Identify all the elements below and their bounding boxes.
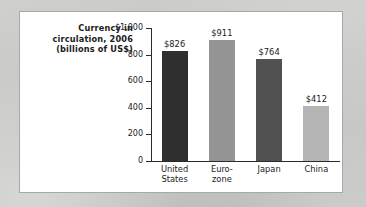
category-label-line: China bbox=[290, 164, 342, 174]
y-axis-tick-label: 0 bbox=[98, 156, 143, 165]
figure-panel: Currency in circulation, 2006 (billions … bbox=[19, 11, 343, 193]
bar-value-label: $826 bbox=[153, 39, 197, 49]
category-label-line: United bbox=[149, 164, 201, 174]
bars-layer: $826$911$764$412 bbox=[151, 28, 340, 161]
category-label-line: Euro- bbox=[196, 164, 248, 174]
category-label: Japan bbox=[243, 164, 295, 174]
y-axis-tick-mark bbox=[146, 161, 152, 162]
bar-column[interactable]: $826 bbox=[162, 28, 188, 161]
bar-value-label: $764 bbox=[247, 47, 291, 57]
bar-column[interactable]: $911 bbox=[209, 28, 235, 161]
bar-column[interactable]: $412 bbox=[303, 28, 329, 161]
bar[interactable] bbox=[209, 40, 235, 161]
y-axis-tick-label: $1,000 bbox=[98, 23, 143, 32]
category-label: UnitedStates bbox=[149, 164, 201, 185]
x-axis-line bbox=[151, 161, 340, 162]
category-label-line: Japan bbox=[243, 164, 295, 174]
category-label: China bbox=[290, 164, 342, 174]
plot-area: $1,0008006004002000 $826$911$764$412 Uni… bbox=[20, 12, 342, 192]
category-labels: UnitedStatesEuro-zoneJapanChina bbox=[151, 164, 340, 194]
bar-value-label: $412 bbox=[294, 94, 338, 104]
bar[interactable] bbox=[256, 59, 282, 161]
category-label: Euro-zone bbox=[196, 164, 248, 185]
bar[interactable] bbox=[303, 106, 329, 161]
bar-value-label: $911 bbox=[200, 28, 244, 38]
figure-panel-inner: Currency in circulation, 2006 (billions … bbox=[20, 12, 342, 192]
y-axis-tick-label: 600 bbox=[98, 76, 143, 85]
category-label-line: zone bbox=[196, 174, 248, 184]
bar[interactable] bbox=[162, 51, 188, 161]
y-axis-tick-label: 200 bbox=[98, 129, 143, 138]
y-axis-tick-label: 400 bbox=[98, 103, 143, 112]
y-axis-tick-label: 800 bbox=[98, 50, 143, 59]
bar-column[interactable]: $764 bbox=[256, 28, 282, 161]
category-label-line: States bbox=[149, 174, 201, 184]
